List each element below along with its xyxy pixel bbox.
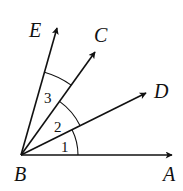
angle-arc-3 (44, 72, 71, 85)
point-label-E: E (28, 19, 41, 41)
point-label-A: A (161, 163, 176, 185)
diagram-canvas: ADCE123B (0, 0, 183, 191)
angle-label-3: 3 (44, 90, 52, 106)
ray-BC (21, 52, 95, 155)
ray-BD (21, 93, 146, 155)
angle-label-2: 2 (54, 119, 62, 135)
angle-label-1: 1 (61, 139, 69, 155)
angle-diagram: ADCE123B (0, 0, 183, 191)
ray-BE (21, 28, 57, 155)
point-label-D: D (153, 80, 169, 102)
point-label-C: C (94, 24, 108, 46)
vertex-label-B: B (14, 163, 26, 185)
angle-arc-1 (72, 130, 78, 155)
angle-arc-2 (60, 101, 81, 125)
